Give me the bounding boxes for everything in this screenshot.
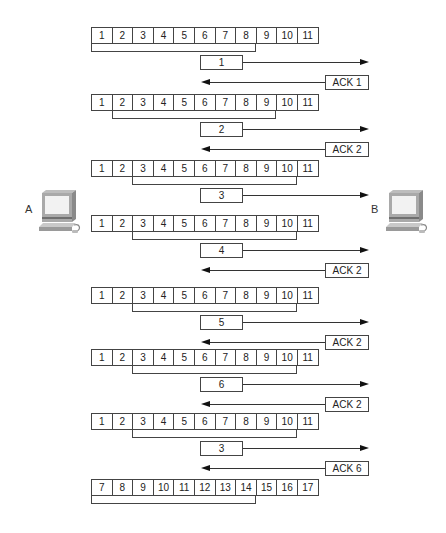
segment-box: 2 <box>200 122 243 137</box>
window-row: 1234567891011 <box>91 215 319 230</box>
segment-box: 6 <box>200 377 243 392</box>
segment-cell: 6 <box>194 349 216 366</box>
segment-cell: 5 <box>173 27 195 44</box>
segment-cell: 8 <box>235 94 257 111</box>
segment-cell: 16 <box>276 479 298 496</box>
arrow-to-receiver <box>243 62 361 63</box>
segment-cell: 1 <box>91 94 113 111</box>
arrow-to-receiver <box>243 129 361 130</box>
arrow-to-receiver <box>243 448 361 449</box>
arrow-to-receiver <box>243 322 361 323</box>
window-row: 1234567891011 <box>91 413 319 428</box>
arrowhead-right-icon <box>360 445 369 451</box>
segment-cell: 2 <box>112 94 134 111</box>
computer-b-icon <box>381 189 429 237</box>
segment-cell: 10 <box>276 287 298 304</box>
segment-cell: 7 <box>215 27 237 44</box>
host-a-label: A <box>25 203 32 215</box>
segment-cell: 10 <box>276 215 298 232</box>
segment-cell: 11 <box>297 94 319 111</box>
segment-cell: 8 <box>235 160 257 177</box>
segment-cell: 9 <box>256 94 278 111</box>
segment-cell: 11 <box>297 215 319 232</box>
segment-cell: 9 <box>256 413 278 430</box>
segment-cell: 12 <box>194 479 216 496</box>
arrowhead-left-icon <box>201 465 210 471</box>
arrow-to-sender <box>209 404 325 405</box>
segment-cell: 4 <box>153 287 175 304</box>
segment-cell: 10 <box>276 413 298 430</box>
window-bracket <box>132 231 297 240</box>
segment-cell: 10 <box>276 160 298 177</box>
segment-cell: 1 <box>91 287 113 304</box>
segment-cell: 11 <box>297 287 319 304</box>
segment-cell: 9 <box>132 479 154 496</box>
segment-cell: 9 <box>256 287 278 304</box>
segment-cell: 6 <box>194 160 216 177</box>
segment-cell: 8 <box>235 413 257 430</box>
segment-box: 1 <box>200 55 243 70</box>
segment-cell: 9 <box>256 160 278 177</box>
arrowhead-left-icon <box>201 401 210 407</box>
segment-cell: 11 <box>173 479 195 496</box>
segment-cell: 7 <box>215 215 237 232</box>
window-bracket <box>132 303 297 312</box>
segment-cell: 5 <box>173 160 195 177</box>
ack-box: ACK 2 <box>325 335 369 350</box>
window-row: 1234567891011 <box>91 27 319 42</box>
segment-cell: 1 <box>91 27 113 44</box>
segment-cell: 1 <box>91 349 113 366</box>
window-row: 1234567891011 <box>91 287 319 302</box>
arrowhead-left-icon <box>201 267 210 273</box>
window-bracket <box>91 495 256 504</box>
window-bracket <box>132 176 297 185</box>
segment-cell: 6 <box>194 287 216 304</box>
segment-cell: 3 <box>132 215 154 232</box>
segment-cell: 10 <box>276 27 298 44</box>
ack-box: ACK 2 <box>325 263 369 278</box>
arrowhead-right-icon <box>360 381 369 387</box>
segment-cell: 10 <box>276 349 298 366</box>
window-row: 7891011121314151617 <box>91 479 319 494</box>
segment-box: 4 <box>200 243 243 258</box>
segment-cell: 4 <box>153 27 175 44</box>
segment-cell: 11 <box>297 27 319 44</box>
segment-cell: 9 <box>256 215 278 232</box>
segment-cell: 8 <box>235 27 257 44</box>
segment-cell: 4 <box>153 413 175 430</box>
segment-cell: 7 <box>215 413 237 430</box>
segment-cell: 7 <box>215 94 237 111</box>
segment-cell: 9 <box>256 27 278 44</box>
segment-cell: 4 <box>153 349 175 366</box>
segment-cell: 6 <box>194 27 216 44</box>
segment-cell: 7 <box>215 160 237 177</box>
arrow-to-receiver <box>243 250 361 251</box>
segment-cell: 8 <box>235 287 257 304</box>
arrowhead-right-icon <box>360 319 369 325</box>
arrowhead-right-icon <box>360 126 369 132</box>
ack-box: ACK 1 <box>325 75 369 90</box>
arrow-to-sender <box>209 468 325 469</box>
segment-cell: 8 <box>112 479 134 496</box>
segment-cell: 4 <box>153 160 175 177</box>
segment-cell: 1 <box>91 160 113 177</box>
segment-cell: 2 <box>112 413 134 430</box>
arrow-to-receiver <box>243 195 361 196</box>
segment-cell: 7 <box>215 287 237 304</box>
segment-cell: 1 <box>91 215 113 232</box>
segment-cell: 3 <box>132 349 154 366</box>
ack-box: ACK 2 <box>325 142 369 157</box>
ack-box: ACK 2 <box>325 397 369 412</box>
segment-cell: 5 <box>173 215 195 232</box>
segment-cell: 3 <box>132 287 154 304</box>
arrowhead-left-icon <box>201 79 210 85</box>
segment-cell: 2 <box>112 287 134 304</box>
segment-cell: 7 <box>215 349 237 366</box>
segment-cell: 15 <box>256 479 278 496</box>
segment-cell: 6 <box>194 413 216 430</box>
arrow-to-sender <box>209 270 325 271</box>
window-bracket <box>91 43 256 52</box>
segment-cell: 5 <box>173 94 195 111</box>
window-row: 1234567891011 <box>91 349 319 364</box>
segment-cell: 9 <box>256 349 278 366</box>
